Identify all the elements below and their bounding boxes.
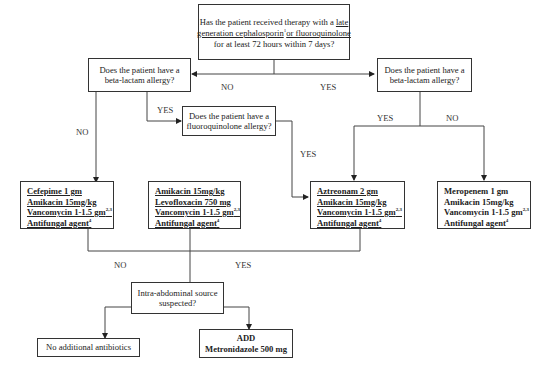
add-metronidazole-box: ADD Metronidazole 500 mg (199, 329, 293, 358)
edge-label-intra-yes: YES (235, 260, 251, 270)
beta-right-line1: Does the patient have a (384, 65, 464, 76)
edge-label-beta-left-yes: YES (157, 105, 173, 115)
start-question-box: Has the patient received therapy with a … (198, 4, 350, 60)
beta-right-line2: beta-lactam allergy? (390, 75, 460, 86)
start-question-line3: for at least 72 hours within 7 days? (214, 39, 335, 50)
intra-abdominal-question-box: Intra-abdominal source suspected? (131, 282, 224, 314)
start-question-link-fluoroquinolone: or fluoroquinolone (286, 28, 351, 38)
intra-line2: suspected? (159, 298, 196, 309)
edge-label-intra-no: NO (114, 260, 126, 270)
drug-item: Amikacin 15mg/kg (155, 186, 240, 197)
drug-item: Vancomycin 1-1.5 gm2,3 (444, 207, 530, 218)
no-additional-antibiotics-box: No additional antibiotics (37, 338, 140, 357)
drug-item: Vancomycin 1-1.5 gm2,3 (155, 207, 240, 218)
drug-item: Amikacin 15mg/kg (317, 197, 404, 208)
drug-item: Vancomycin 1-1.5 gm2,3 (317, 207, 404, 218)
drug-item: Antifungal agent4 (444, 218, 530, 229)
drug-item: Antifungal agent4 (317, 218, 404, 229)
fluoro-line1: Does the patient have a (189, 111, 269, 122)
regimen-levofloxacin-box: Amikacin 15mg/kg Levofloxacin 750 mg Van… (148, 181, 241, 229)
edge-label-fluoro-yes: YES (300, 149, 316, 159)
drug-item: Antifungal agent4 (155, 218, 240, 229)
start-question-link-late: late (336, 17, 348, 27)
edge-label-beta-right-yes: YES (377, 113, 393, 123)
beta-lactam-allergy-left-box: Does the patient have a beta-lactam alle… (88, 58, 191, 92)
metronidazole-dose: Metronidazole 500 mg (205, 344, 287, 355)
add-label: ADD (237, 333, 256, 344)
drug-item: Antifungal agent4 (27, 218, 113, 229)
fluoroquinolone-allergy-box: Does the patient have a fluoroquinolone … (182, 106, 276, 136)
start-question-line1: Has the patient received therapy with a (200, 17, 336, 27)
intra-line1: Intra-abdominal source (138, 288, 218, 299)
edge-label-beta-right-no: NO (446, 113, 458, 123)
drug-item: Vancomycin 1-1.5 gm2,3 (27, 207, 113, 218)
start-question-link-cephalosporin: generation cephalosporin (197, 28, 284, 38)
regimen-meropenem-box: Meropenem 1 gm Amikacin 15mg/kg Vancomyc… (437, 181, 531, 229)
beta-left-line1: Does the patient have a (99, 65, 179, 76)
beta-left-line2: beta-lactam allergy? (105, 75, 175, 86)
drug-item: Levofloxacin 750 mg (155, 197, 240, 208)
drug-item: Aztreonam 2 gm (317, 186, 404, 197)
drug-item: Amikacin 15mg/kg (27, 197, 113, 208)
regimen-aztreonam-box: Aztreonam 2 gm Amikacin 15mg/kg Vancomyc… (310, 181, 405, 229)
edge-label-start-yes: YES (320, 82, 336, 92)
beta-lactam-allergy-right-box: Does the patient have a beta-lactam alle… (377, 58, 472, 92)
edge-label-beta-left-no: NO (76, 127, 88, 137)
drug-item: Cefepime 1 gm (27, 186, 113, 197)
drug-item: Amikacin 15mg/kg (444, 197, 530, 208)
drug-item: Meropenem 1 gm (444, 186, 530, 197)
fluoro-line2: fluoroquinolone allergy? (186, 121, 271, 132)
no-additional-text: No additional antibiotics (46, 342, 131, 353)
edge-label-start-no: NO (221, 82, 233, 92)
regimen-cefepime-box: Cefepime 1 gm Amikacin 15mg/kg Vancomyci… (20, 181, 114, 229)
